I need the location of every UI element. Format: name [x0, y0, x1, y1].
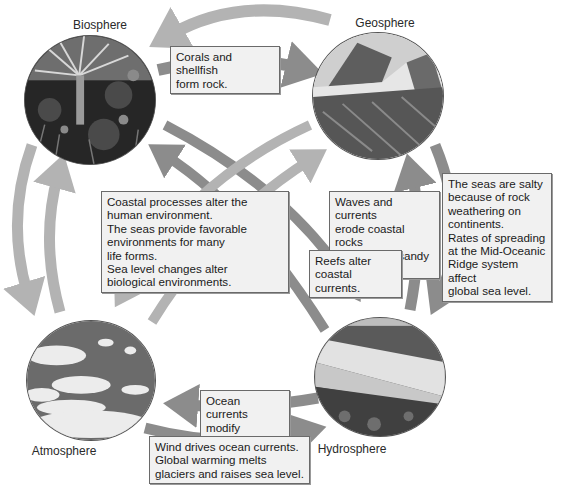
box-salty-line: global sea level.: [448, 284, 546, 297]
clouds-photo-icon: [27, 321, 155, 440]
box-coastal-line: The seas provide favorable: [107, 222, 283, 235]
biosphere-image: [24, 35, 156, 165]
box-coastal-line: environments for many: [107, 235, 283, 248]
box-coastal-line: human environment.: [107, 208, 283, 221]
box-waves-line: erode coastal rocks: [335, 222, 434, 249]
box-coastal-processes: Coastal processes alter the human enviro…: [101, 191, 289, 293]
arrow-biosphere-to-atmosphere: [17, 145, 32, 295]
box-coastal-line: Coastal processes alter the: [107, 195, 283, 208]
geosphere-image: [312, 32, 444, 160]
box-wind-line: Global warming melts: [155, 453, 304, 466]
box-coastal-line: life forms.: [107, 249, 283, 262]
geosphere-label: Geosphere: [315, 16, 455, 30]
arrow-atmosphere-to-biosphere: [49, 175, 60, 312]
box-reefs: Reefs alter coastal currents.: [309, 250, 402, 298]
box-salty-line: at the Mid-Oceanic: [448, 244, 546, 257]
atmosphere-image: [26, 320, 156, 441]
box-corals-line: form rock.: [176, 77, 274, 90]
ocean-coast-photo-icon: [315, 318, 445, 436]
box-coastal-line: biological environments.: [107, 275, 283, 288]
box-ocean-currents-line: Ocean currents: [206, 394, 284, 421]
forest-photo-icon: [25, 36, 155, 164]
box-salty-line: Ridge system affect: [448, 257, 546, 284]
box-reefs-line: Reefs alter: [315, 254, 396, 267]
box-corals-line: Corals and shellfish: [176, 50, 274, 77]
box-salty-line: weathering on: [448, 204, 546, 217]
box-salty-line: Rates of spreading: [448, 231, 546, 244]
box-corals: Corals and shellfish form rock.: [170, 46, 280, 94]
box-waves-line: Waves and currents: [335, 195, 434, 222]
box-wind-line: glaciers and raises sea level.: [155, 467, 304, 480]
box-coastal-line: Sea level changes alter: [107, 262, 283, 275]
box-salty-line: because of rock: [448, 190, 546, 203]
box-salty-seas: The seas are salty because of rock weath…: [442, 173, 552, 302]
atmosphere-label: Atmosphere: [0, 444, 134, 458]
box-salty-line: continents.: [448, 217, 546, 230]
arrow-geosphere-to-biosphere: [170, 10, 330, 35]
box-wind-line: Wind drives ocean currents.: [155, 440, 304, 453]
box-salty-line: The seas are salty: [448, 177, 546, 190]
box-reefs-line: coastal currents.: [315, 267, 396, 294]
box-wind: Wind drives ocean currents. Global warmi…: [149, 436, 310, 484]
biosphere-label: Biosphere: [30, 18, 170, 32]
hydrosphere-image: [314, 317, 446, 437]
mountain-photo-icon: [313, 33, 443, 159]
